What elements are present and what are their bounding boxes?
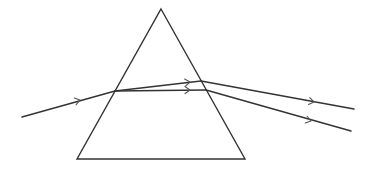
prism-diagram [0,0,374,175]
incident-ray [22,91,115,117]
emergent-ray-lower [206,90,351,131]
prism-diagram-canvas [0,0,374,175]
arrow-icon-emergent-lower [305,116,311,123]
internal-ray-lower [115,90,206,91]
